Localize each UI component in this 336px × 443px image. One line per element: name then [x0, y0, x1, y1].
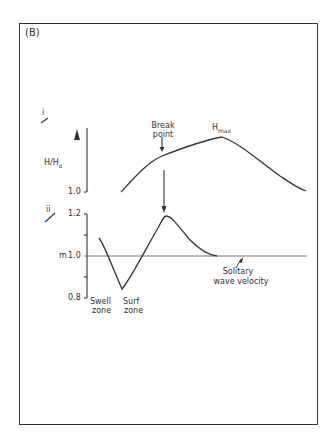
solitary-label-1: Solitary: [208, 268, 268, 276]
diagram-graphics: [0, 0, 336, 443]
subplot-i-label: i: [42, 109, 44, 117]
subplot-ii-label: ii: [46, 206, 50, 214]
lower-tick-label-1-0: 1.0: [68, 252, 81, 260]
hmax-label: Hmax: [212, 124, 231, 134]
lower-tick-label-1-2: 1.2: [68, 210, 81, 218]
subplot-ii-ylabel: m: [59, 252, 67, 260]
ylabel-subscript: o: [59, 162, 63, 169]
ylabel-text: H/H: [44, 158, 59, 167]
solitary-arrowhead-icon: [239, 257, 243, 263]
lower-tick-label-0-8: 0.8: [68, 294, 81, 302]
up-arrow-icon: [74, 129, 80, 140]
subplot-ii-slash: [45, 213, 55, 222]
break-point-label-1: Break: [148, 122, 178, 130]
upper-tick-label-1-0: 1.0: [68, 188, 81, 196]
surf-zone-label-2: zone: [124, 307, 143, 315]
surf-zone-label-1: Surf: [123, 298, 139, 306]
wave-height-curve: [121, 137, 306, 192]
celerity-curve: [99, 216, 217, 289]
swell-zone-label-1: Swell: [90, 298, 111, 306]
break-point-label-2: point: [148, 131, 178, 139]
hmax-subscript: max: [218, 127, 231, 134]
solitary-label-2: wave velocity: [206, 278, 276, 286]
subplot-i-slash: [41, 118, 48, 123]
swell-zone-label-2: zone: [92, 307, 111, 315]
break-arrowhead-icon: [160, 147, 165, 152]
link-arrowhead-icon: [162, 206, 167, 213]
subplot-i-ylabel: H/Ho: [44, 159, 62, 169]
